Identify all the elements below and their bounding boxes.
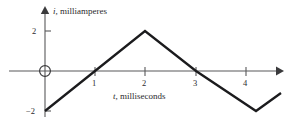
plot-canvas [0, 0, 290, 137]
x-tick-label-3: 3 [193, 79, 197, 88]
y-axis-title: i, milliamperes [53, 7, 107, 16]
y-tick-label-minus-2: −2 [26, 107, 35, 116]
x-axis-title: t, milliseconds [113, 92, 166, 101]
x-tick-label-4: 4 [243, 79, 247, 88]
x-tick-label-2: 2 [142, 79, 146, 88]
y-tick-label-2: 2 [32, 27, 36, 36]
x-tick-label-1: 1 [92, 79, 96, 88]
arrow-right-icon [276, 67, 284, 76]
x-axis-unit: milliseconds [120, 91, 166, 101]
current-waveform-figure: 2 −2 1 2 3 4 i, milliamperes t, millisec… [0, 0, 290, 137]
arrow-up-icon [41, 6, 49, 14]
y-axis-unit: milliamperes [60, 6, 107, 16]
